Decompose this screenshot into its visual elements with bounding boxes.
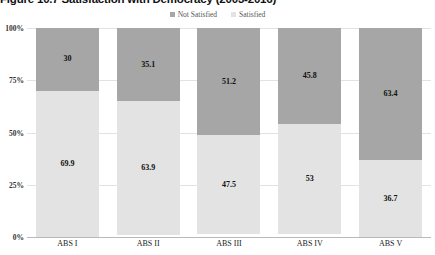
gridline-0 [27,237,431,238]
y-axis-tick-100%: 100% [5,24,24,33]
bar-segment-satisfied[interactable]: 53 [278,124,341,235]
bar-segment-satisfied[interactable]: 69.9 [36,91,99,237]
bar-segment-not-satisfied[interactable]: 63.4 [359,28,422,160]
bar-segment-satisfied[interactable]: 36.7 [359,160,422,237]
x-axis-tick-abs-iii: ABS III [197,239,260,248]
bar-value-label: 53 [306,175,314,183]
y-axis-tick-50%: 50% [9,128,24,137]
legend-swatch-satisfied [231,12,236,17]
bar-value-label: 63.4 [384,90,398,98]
bar-value-label: 35.1 [141,61,155,69]
y-axis-tick-25%: 25% [9,180,24,189]
bar-value-label: 30 [63,55,71,63]
x-axis-tick-abs-iv: ABS IV [278,239,341,248]
x-axis-tick-abs-i: ABS I [36,239,99,248]
bar-value-label: 47.5 [222,181,236,189]
bar-group-abs-v[interactable]: 63.436.7 [359,28,422,237]
y-axis-tick-0%: 0% [13,233,24,242]
legend-item-satisfied[interactable]: Satisfied [231,11,265,19]
x-axis-tick-abs-ii: ABS II [117,239,180,248]
bar-group-abs-ii[interactable]: 35.163.9 [117,28,180,237]
bar-value-label: 36.7 [384,195,398,203]
page-title: Figure 10.7 Satisfaction with Democracy … [0,0,435,5]
chart-legend: Not Satisfied Satisfied [0,11,435,19]
bar-value-label: 69.9 [60,160,74,168]
bar-segment-not-satisfied[interactable]: 35.1 [117,28,180,101]
bar-value-label: 63.9 [141,164,155,172]
bar-segment-satisfied[interactable]: 63.9 [117,101,180,235]
bar-value-label: 45.8 [303,72,317,80]
x-axis-tick-labels: ABS IABS IIABS IIIABS IVABS V [27,239,431,248]
bar-value-label: 51.2 [222,78,236,86]
plot-area: 0%25%50%75%100% 3069.935.163.951.247.545… [27,28,431,237]
bar-group-abs-iv[interactable]: 45.853 [278,28,341,237]
legend-label-not-satisfied: Not Satisfied [178,11,217,19]
legend-swatch-not-satisfied [170,12,175,17]
legend-label-satisfied: Satisfied [239,11,265,19]
bar-series-container: 3069.935.163.951.247.545.85363.436.7 [27,28,431,237]
x-axis-tick-abs-v: ABS V [359,239,422,248]
bar-group-abs-iii[interactable]: 51.247.5 [197,28,260,237]
bar-segment-satisfied[interactable]: 47.5 [197,135,260,234]
y-axis-tick-75%: 75% [9,76,24,85]
bar-segment-not-satisfied[interactable]: 45.8 [278,28,341,124]
bar-group-abs-i[interactable]: 3069.9 [36,28,99,237]
bar-segment-not-satisfied[interactable]: 51.2 [197,28,260,135]
bar-segment-not-satisfied[interactable]: 30 [36,28,99,91]
legend-item-not-satisfied[interactable]: Not Satisfied [170,11,217,19]
